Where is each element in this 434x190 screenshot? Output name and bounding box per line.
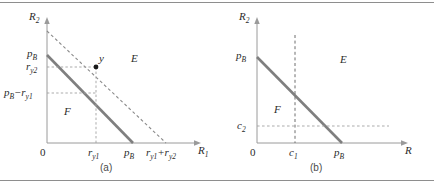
panel-b-xtick-pb: pB	[334, 147, 344, 158]
panel-b-caption: (b)	[310, 162, 322, 173]
panel-a-xtick-pb: pB	[124, 147, 134, 158]
panel-a-ytick-pb-minus-ry1: pB−ry1	[4, 87, 33, 98]
panel-b-budget-line-solid	[257, 57, 342, 143]
panel-a-xtick-ry1: ry1	[88, 147, 99, 158]
panel-a-caption: (a)	[100, 162, 112, 173]
panel-a: R2 R1 pB ry2 pB−ry1 0 ry1 pB ry1+ry2 y E…	[0, 0, 217, 178]
panel-a-point-label-y: y	[99, 53, 104, 64]
panel-a-origin-label: 0	[40, 147, 46, 158]
panel-a-region-label-f: F	[64, 106, 71, 117]
panel-a-ytick-ry2: ry2	[26, 61, 37, 72]
panel-a-endowment-line-dashed	[47, 31, 166, 143]
panel-b: R2 R pB c2 0 c1 pB E F (b)	[217, 0, 434, 178]
panel-b-region-label-f: F	[274, 104, 281, 115]
panel-a-region-label-e: E	[131, 53, 138, 64]
panel-a-y-axis-label: R2	[29, 11, 39, 22]
panel-a-axes	[44, 17, 201, 146]
panel-b-xtick-c1: c1	[289, 147, 298, 158]
panel-b-x-axis-label: R	[405, 145, 412, 156]
panel-b-region-label-e: E	[340, 54, 347, 65]
panel-a-xtick-ry1-plus-ry2: ry1+ry2	[146, 147, 176, 158]
panel-b-ytick-pb: pB	[236, 50, 246, 61]
panel-a-ytick-pb: pB	[27, 48, 37, 59]
panel-b-origin-label: 0	[250, 147, 256, 158]
figure-container: R2 R1 pB ry2 pB−ry1 0 ry1 pB ry1+ry2 y E…	[0, 0, 434, 190]
panel-a-budget-line-solid	[47, 55, 133, 143]
bottom-divider-rule	[0, 180, 434, 181]
panel-b-y-axis-label: R2	[239, 11, 249, 22]
panel-a-x-axis-label: R1	[198, 145, 208, 156]
panel-a-point-y	[94, 65, 99, 70]
panel-b-ytick-c2: c2	[237, 120, 246, 131]
